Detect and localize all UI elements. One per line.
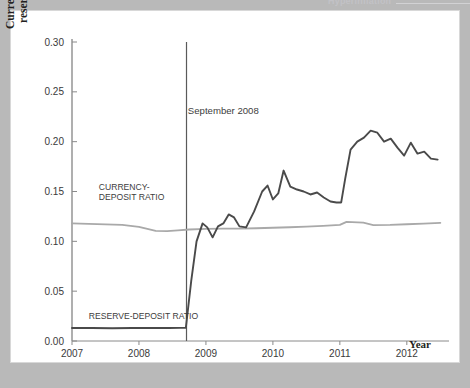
chart-annotation: September 2008 bbox=[188, 105, 259, 116]
chart-annotation: CURRENCY- bbox=[99, 182, 150, 192]
x-axis-title: Year bbox=[409, 338, 431, 350]
ghost-header-text: Hyperinflation bbox=[328, 0, 391, 6]
x-tick-label: 2008 bbox=[128, 348, 151, 359]
plot-area: 0.000.050.100.150.200.250.30200720082009… bbox=[11, 11, 459, 362]
y-tick-label: 0.15 bbox=[45, 186, 65, 197]
x-tick-label: 2010 bbox=[262, 348, 285, 359]
chart-figure: Currency-deposit ratio and reserve-depos… bbox=[11, 11, 459, 362]
page-header-strip: Hyperinflation bbox=[0, 0, 470, 9]
series-line-reserve-deposit-ratio bbox=[72, 131, 438, 329]
x-tick-label: 2007 bbox=[61, 348, 84, 359]
chart-annotation: RESERVE-DEPOSIT RATIO bbox=[89, 311, 199, 321]
y-tick-label: 0.30 bbox=[45, 37, 65, 48]
y-tick-label: 0.00 bbox=[45, 336, 65, 347]
chart-annotation: DEPOSIT RATIO bbox=[99, 192, 165, 202]
x-tick-label: 2011 bbox=[329, 348, 351, 359]
figure-container: Hyperinflation Currency-deposit ratio an… bbox=[0, 0, 470, 388]
y-tick-label: 0.05 bbox=[45, 286, 65, 297]
x-tick-label: 2009 bbox=[195, 348, 218, 359]
header-rule bbox=[396, 3, 470, 4]
y-tick-label: 0.10 bbox=[45, 236, 65, 247]
series-line-currency-deposit-ratio bbox=[72, 222, 440, 231]
y-tick-label: 0.20 bbox=[45, 136, 65, 147]
y-tick-label: 0.25 bbox=[45, 86, 65, 97]
